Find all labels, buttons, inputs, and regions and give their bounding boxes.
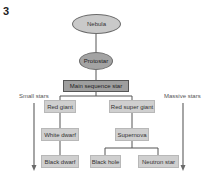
neutron-star-label: Neutron star — [142, 159, 175, 165]
supernova-label: Supernova — [117, 132, 146, 138]
red-super-giant-node: Red super giant — [109, 100, 155, 113]
black-hole-node: Black hole — [90, 155, 121, 168]
black-dwarf-node: Black dwarf — [41, 155, 79, 168]
main-sequence-star-node: Main sequence star — [63, 80, 129, 92]
small-stars-arrow — [32, 103, 37, 171]
nebula-node: Nebula — [72, 14, 121, 34]
white-dwarf-label: White dwarf — [44, 132, 76, 138]
nebula-label: Nebula — [87, 21, 106, 27]
protostar-label: Protostar — [84, 58, 108, 64]
massive-stars-label: Massive stars — [164, 93, 201, 99]
figure-number: 3 — [3, 5, 9, 17]
red-giant-label: Red giant — [47, 104, 73, 110]
black-hole-label: Black hole — [92, 159, 120, 165]
red-super-giant-label: Red super giant — [111, 104, 153, 110]
neutron-star-node: Neutron star — [138, 155, 179, 168]
protostar-node: Protostar — [79, 52, 113, 70]
black-dwarf-label: Black dwarf — [44, 159, 75, 165]
white-dwarf-node: White dwarf — [41, 128, 79, 141]
massive-stars-arrow — [181, 103, 186, 171]
main-sequence-star-label: Main sequence star — [70, 83, 122, 89]
small-stars-label: Small stars — [19, 93, 49, 99]
supernova-node: Supernova — [115, 128, 149, 141]
red-giant-node: Red giant — [44, 100, 76, 113]
